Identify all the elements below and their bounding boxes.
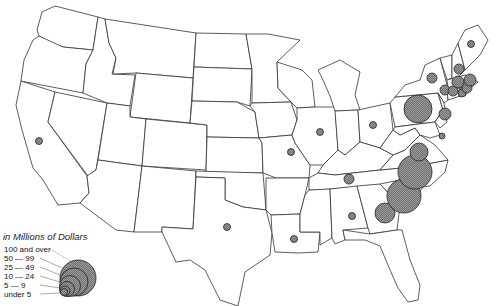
symbol-tennessee [344,174,354,184]
symbol-illinois [317,129,324,136]
symbol-alabama [349,213,356,220]
symbol-maryland [439,133,445,139]
symbol-new-york [427,73,437,83]
legend-item: 10 — 24 [4,272,34,281]
legend-item: 50 — 99 [4,254,34,263]
state-florida [343,230,420,302]
legend-item: 100 and over [4,245,51,254]
legend-item: 25 — 49 [4,263,34,272]
state-montana [105,19,196,78]
legend-circles [40,249,96,297]
state-new-mexico [134,166,196,232]
state-kansas [206,137,263,173]
legend-item: under 5 [4,290,31,299]
symbol-texas [224,224,231,231]
state-south-dakota [192,67,252,106]
symbol-virginia [410,143,428,161]
us-map [0,0,497,306]
state-wyoming [130,73,193,123]
symbol-louisiana [291,236,298,243]
symbol-new-jersey [439,108,451,120]
legend-title: in Millions of Dollars [3,231,87,242]
legend-item: 5 — 9 [4,281,25,290]
symbol-new-hampshire [454,64,464,74]
state-michigan [318,60,360,111]
symbol-california [36,138,43,145]
symbol-missouri [288,149,295,156]
symbol-maine [468,41,475,48]
symbol-pennsylvania [404,95,432,123]
symbol-ohio [370,122,377,129]
state-north-dakota [194,33,252,69]
symbol-massachusetts-east [464,74,476,86]
state-colorado [142,119,207,170]
